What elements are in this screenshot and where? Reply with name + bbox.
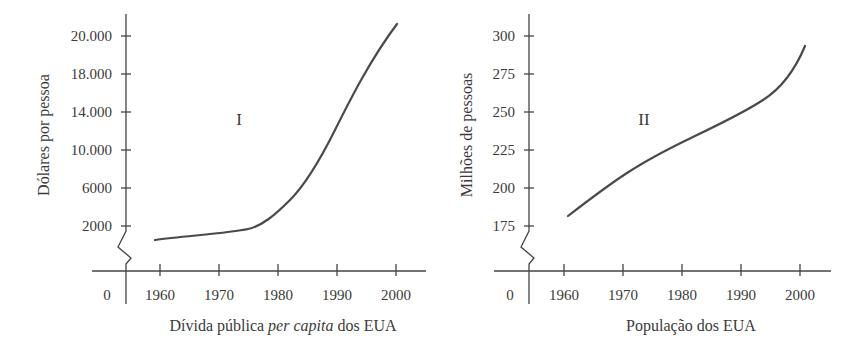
chart-i-x-tick-labels: 0 1960 1970 1980 1990 2000 bbox=[103, 287, 411, 303]
x-tick-label: 1990 bbox=[726, 287, 756, 303]
x-tick-label: 1980 bbox=[667, 287, 697, 303]
y-tick-label: 14.000 bbox=[71, 104, 112, 120]
x-axis-title-part: Dívida pública bbox=[169, 317, 268, 335]
y-tick-label: 2000 bbox=[82, 218, 112, 234]
x-tick-label: 1970 bbox=[204, 287, 234, 303]
x-tick-label: 1960 bbox=[549, 287, 579, 303]
x-tick-label: 2000 bbox=[381, 287, 411, 303]
x-origin-label: 0 bbox=[103, 287, 111, 303]
chart-i-x-axis-title: Dívida pública per capita dos EUA bbox=[169, 317, 397, 335]
chart-i-data-line bbox=[155, 24, 397, 240]
chart-i-x-ticks bbox=[160, 264, 396, 276]
chart-ii-y-tick-labels: 300 275 250 225 200 175 bbox=[493, 28, 516, 234]
chart-i-panel-label: I bbox=[236, 110, 242, 129]
y-tick-label: 175 bbox=[493, 218, 516, 234]
chart-i-y-tick-labels: 20.000 18.000 14.000 10.000 6000 2000 bbox=[71, 28, 112, 234]
chart-i-y-axis bbox=[118, 14, 131, 304]
chart-i-y-axis-title: Dólares por pessoa bbox=[35, 74, 53, 196]
chart-ii-x-tick-labels: 0 1960 1970 1980 1990 2000 bbox=[506, 287, 815, 303]
chart-ii-panel-label: II bbox=[638, 110, 650, 129]
chart-ii-x-axis-title: População dos EUA bbox=[626, 317, 756, 335]
x-axis-title-part: dos EUA bbox=[333, 317, 397, 334]
y-tick-label: 18.000 bbox=[71, 66, 112, 82]
x-axis-title-italic: per capita bbox=[267, 317, 333, 335]
y-tick-label: 10.000 bbox=[71, 142, 112, 158]
chart-canvas: 20.000 18.000 14.000 10.000 6000 2000 0 … bbox=[0, 0, 867, 352]
y-tick-label: 300 bbox=[493, 28, 516, 44]
x-tick-label: 1970 bbox=[608, 287, 638, 303]
x-tick-label: 1960 bbox=[145, 287, 175, 303]
chart-ii-y-axis bbox=[521, 14, 534, 304]
x-origin-label: 0 bbox=[506, 287, 514, 303]
y-tick-label: 275 bbox=[493, 66, 516, 82]
x-tick-label: 1980 bbox=[263, 287, 293, 303]
chart-ii-x-ticks bbox=[564, 264, 800, 276]
chart-i: 20.000 18.000 14.000 10.000 6000 2000 0 … bbox=[35, 14, 426, 335]
y-tick-label: 225 bbox=[493, 142, 516, 158]
y-tick-label: 20.000 bbox=[71, 28, 112, 44]
y-tick-label: 200 bbox=[493, 180, 516, 196]
chart-ii: 300 275 250 225 200 175 0 1960 1970 1980… bbox=[458, 14, 831, 335]
x-tick-label: 1990 bbox=[322, 287, 352, 303]
y-tick-label: 250 bbox=[493, 104, 516, 120]
chart-ii-y-axis-title: Milhões de pessoas bbox=[458, 73, 476, 197]
chart-ii-data-line bbox=[568, 46, 805, 216]
x-tick-label: 2000 bbox=[785, 287, 815, 303]
y-tick-label: 6000 bbox=[82, 180, 112, 196]
